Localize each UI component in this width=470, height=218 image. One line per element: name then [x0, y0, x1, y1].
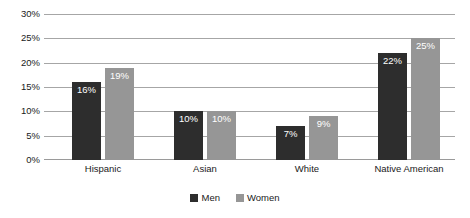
bar-value-label: 16%: [72, 84, 101, 95]
y-axis: 30% 25% 20% 15% 10% 5% 0%: [0, 14, 40, 160]
bar-men-hispanic: 16%: [72, 82, 101, 160]
bar-group-asian: 10% 10%: [174, 14, 236, 160]
bar-value-label: 25%: [411, 40, 440, 51]
y-axis-tick: 10%: [2, 106, 40, 116]
legend-item-women[interactable]: Women: [236, 193, 280, 203]
plot-area: 16% 19% 10% 10% 7% 9%: [44, 14, 455, 160]
x-axis-tick-asian: Asian: [159, 163, 251, 175]
y-axis-tick: 20%: [2, 58, 40, 68]
y-axis-tick: 30%: [2, 9, 40, 19]
bar-women-white: 9%: [309, 116, 338, 160]
bar-group-native-american: 22% 25%: [378, 14, 440, 160]
bar-men-white: 7%: [276, 126, 305, 160]
bar-value-label: 22%: [378, 55, 407, 66]
bar-chart: 30% 25% 20% 15% 10% 5% 0% 16% 19% 10%: [0, 0, 470, 218]
bar-women-asian: 10%: [207, 111, 236, 160]
bar-women-hispanic: 19%: [105, 68, 134, 161]
y-axis-tick: 15%: [2, 82, 40, 92]
legend-swatch-icon: [190, 194, 198, 202]
legend-label: Men: [201, 193, 219, 203]
y-axis-tick: 0%: [2, 155, 40, 165]
x-axis-tick-hispanic: Hispanic: [57, 163, 149, 175]
bar-value-label: 19%: [105, 70, 134, 81]
bar-value-label: 10%: [174, 113, 203, 124]
y-axis-tick: 25%: [2, 33, 40, 43]
bar-value-label: 10%: [207, 113, 236, 124]
legend-item-men[interactable]: Men: [190, 193, 219, 203]
x-axis-tick-white: White: [261, 163, 353, 175]
bar-value-label: 7%: [276, 128, 305, 139]
y-axis-tick: 5%: [2, 131, 40, 141]
x-axis-tick-native-american: Native American: [363, 163, 455, 175]
legend-swatch-icon: [236, 194, 244, 202]
legend: Men Women: [0, 193, 470, 203]
bar-group-hispanic: 16% 19%: [72, 14, 134, 160]
bar-value-label: 9%: [309, 118, 338, 129]
bar-men-asian: 10%: [174, 111, 203, 160]
bar-group-white: 7% 9%: [276, 14, 338, 160]
bar-women-native-american: 25%: [411, 38, 440, 160]
x-axis: Hispanic Asian White Native American: [44, 163, 455, 181]
legend-label: Women: [247, 193, 280, 203]
bar-men-native-american: 22%: [378, 53, 407, 160]
